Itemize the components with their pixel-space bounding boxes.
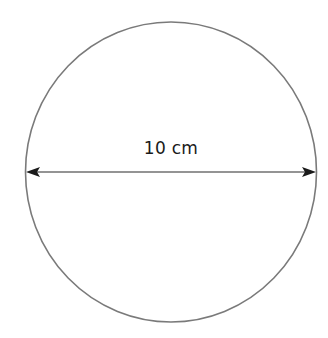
circle-diagram: 10 cm (0, 0, 328, 338)
circle-diagram-svg (0, 0, 328, 338)
diameter-label: 10 cm (120, 138, 222, 158)
